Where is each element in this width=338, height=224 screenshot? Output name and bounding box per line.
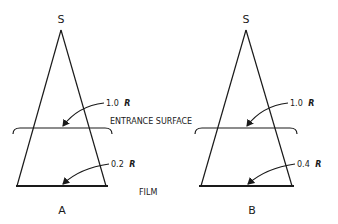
film-dose-label-a: 0.2 R [111, 160, 135, 169]
panel-a: S 1.0 R 0.2 R A [13, 13, 135, 217]
entrance-surface-brace-a [13, 128, 112, 134]
entrance-surface-label: ENTRANCE SURFACE [110, 117, 192, 126]
entrance-surface-brace-b [195, 128, 297, 134]
source-label-a: S [58, 13, 65, 26]
panel-caption-a: A [58, 204, 66, 217]
beam-left-edge-b [201, 30, 246, 186]
panel-b: S 1.0 R 0.4 R B [195, 13, 321, 217]
film-label: FILM [139, 188, 157, 197]
radiation-beam-diagram: S 1.0 R 0.2 R A ENTRANCE SURFACE FILM S [0, 0, 338, 224]
beam-left-edge-a [17, 30, 61, 186]
entrance-dose-arrow-b [247, 103, 288, 126]
source-label-b: S [243, 13, 250, 26]
beam-right-edge-a [61, 30, 106, 186]
panel-caption-b: B [248, 204, 256, 217]
film-dose-label-b: 0.4 R [297, 160, 321, 169]
entrance-dose-label-b: 1.0 R [290, 99, 314, 108]
entrance-dose-label-a: 1.0 R [106, 99, 130, 108]
